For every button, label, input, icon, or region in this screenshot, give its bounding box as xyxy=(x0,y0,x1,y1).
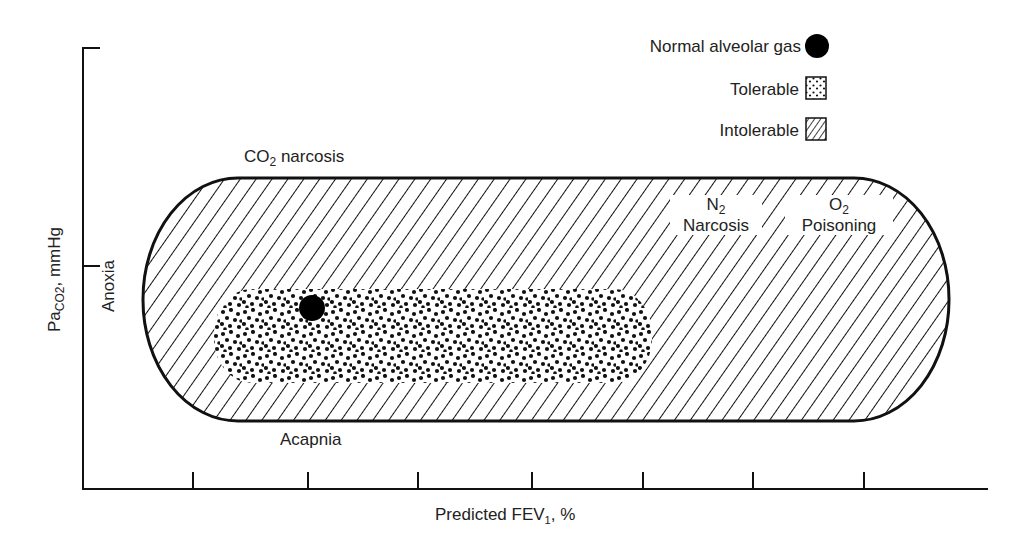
x-label-rest: , % xyxy=(551,505,576,524)
n2-main: N xyxy=(707,195,719,214)
legend-item-normal: Normal alveolar gas xyxy=(650,37,801,57)
y-axis xyxy=(83,47,100,490)
normal-alveolar-gas-point xyxy=(299,295,325,321)
n2-rest: Narcosis xyxy=(673,216,759,235)
co2-sub: 2 xyxy=(270,155,277,169)
legend-normal-symbol xyxy=(805,34,829,58)
legend-intolerable-symbol xyxy=(806,118,826,140)
n2-narcosis-label: N2 Narcosis xyxy=(670,195,762,235)
y-label-rest: , mmHg xyxy=(45,227,64,287)
o2-main: O xyxy=(829,195,842,214)
n2-sub: 2 xyxy=(719,203,726,217)
y-label-sub: CO2 xyxy=(53,287,67,312)
o2-rest: Poisoning xyxy=(788,216,890,235)
co2-rest: narcosis xyxy=(276,147,344,166)
legend-label-normal: Normal alveolar gas xyxy=(650,37,801,57)
acapnia-label: Acapnia xyxy=(280,431,341,448)
x-label-main: Predicted FEV xyxy=(435,505,545,524)
diagram-canvas xyxy=(0,0,1009,547)
legend-label-intolerable: Intolerable xyxy=(720,121,799,141)
anoxia-text: Anoxia xyxy=(99,260,118,312)
legend-label-tolerable: Tolerable xyxy=(730,80,799,100)
legend-item-tolerable: Tolerable xyxy=(730,80,799,100)
acapnia-text: Acapnia xyxy=(280,430,341,449)
anoxia-label: Anoxia xyxy=(100,242,117,312)
legend-item-intolerable: Intolerable xyxy=(720,121,799,141)
y-axis-label: PaCO2, mmHg xyxy=(46,192,63,332)
co2-narcosis-label: CO2 narcosis xyxy=(244,148,344,165)
x-axis-label: Predicted FEV1, % xyxy=(435,506,575,523)
y-label-main: Pa xyxy=(45,311,64,332)
legend-tolerable-symbol xyxy=(806,77,826,99)
o2-sub: 2 xyxy=(842,203,849,217)
x-label-sub: 1 xyxy=(545,514,551,526)
co2-main: CO xyxy=(244,147,270,166)
x-axis xyxy=(82,472,988,489)
o2-poisoning-label: O2 Poisoning xyxy=(785,195,893,235)
